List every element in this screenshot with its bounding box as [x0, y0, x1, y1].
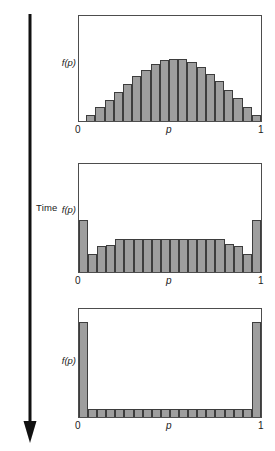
histogram-bar: [132, 76, 141, 121]
histogram-bars-bottom: [79, 309, 261, 417]
histogram-bar: [88, 409, 97, 417]
histogram-bar: [206, 74, 215, 121]
histogram-bar: [114, 92, 123, 121]
histogram-bar: [79, 322, 88, 417]
histogram-bar: [161, 239, 170, 272]
y-axis-label-middle: f(p): [44, 204, 76, 215]
x-tick-right-bottom: 1: [258, 420, 264, 431]
histogram-bar: [134, 239, 143, 272]
histogram-bar: [252, 220, 261, 272]
histogram-bar: [105, 100, 114, 121]
histogram-bar: [161, 409, 170, 417]
histogram-bar: [124, 239, 133, 272]
histogram-bar: [152, 409, 161, 417]
histogram-bar: [225, 409, 234, 417]
histogram-bar: [215, 81, 224, 121]
histogram-bar: [106, 245, 115, 272]
histogram-bars-middle: [79, 164, 261, 272]
histogram-bar: [197, 409, 206, 417]
panel-top: [78, 15, 262, 122]
histogram-bar: [106, 409, 115, 417]
histogram-bar: [143, 409, 152, 417]
histogram-bar: [225, 244, 234, 272]
histogram-bar: [179, 409, 188, 417]
histogram-bar: [79, 220, 88, 272]
histogram-bar: [151, 64, 160, 121]
histogram-bar: [134, 409, 143, 417]
histogram-bar: [197, 239, 206, 272]
x-tick-left-top: 0: [75, 124, 81, 135]
histogram-bar: [160, 60, 169, 121]
histogram-bar: [179, 239, 188, 272]
histogram-bar: [170, 239, 179, 272]
histogram-bar: [143, 239, 152, 272]
histogram-bar: [188, 409, 197, 417]
y-axis-label-top: f(p): [44, 57, 76, 68]
y-axis-label-bottom: f(p): [44, 355, 76, 366]
histogram-bar: [97, 246, 106, 272]
histogram-bar: [170, 409, 179, 417]
histogram-bar: [243, 107, 252, 121]
histogram-bar: [95, 107, 104, 121]
histogram-bar: [178, 59, 187, 121]
x-axis-label-bottom: p: [166, 420, 172, 431]
histogram-bar: [124, 409, 133, 417]
histogram-bar: [123, 84, 132, 121]
x-axis-label-middle: p: [166, 275, 172, 286]
histogram-bar: [233, 98, 242, 121]
histogram-bar: [88, 254, 97, 272]
x-tick-right-middle: 1: [258, 275, 264, 286]
x-tick-right-top: 1: [258, 124, 264, 135]
histogram-bar: [234, 246, 243, 272]
histogram-bar: [169, 59, 178, 121]
histogram-bar: [115, 239, 124, 272]
x-tick-left-middle: 0: [75, 275, 81, 286]
histogram-bar: [215, 409, 224, 417]
histogram-bar: [215, 239, 224, 272]
histogram-bar: [188, 239, 197, 272]
histogram-bars-top: [79, 16, 261, 121]
histogram-bar: [252, 115, 261, 121]
histogram-bar: [206, 409, 215, 417]
histogram-bar: [206, 239, 215, 272]
histogram-bar: [234, 409, 243, 417]
histogram-bar: [86, 115, 95, 121]
histogram-bar: [152, 239, 161, 272]
histogram-bar: [243, 254, 252, 272]
probability-distribution-figure: Time f(p) 0 p 1 f(p) 0 p 1 f(p) 0 p 1: [0, 0, 275, 451]
histogram-bar: [197, 67, 206, 121]
histogram-bar: [115, 409, 124, 417]
histogram-bar: [187, 62, 196, 121]
x-axis-label-top: p: [166, 124, 172, 135]
histogram-bar: [141, 70, 150, 121]
histogram-bar: [224, 90, 233, 122]
histogram-bar: [97, 409, 106, 417]
histogram-bar: [243, 409, 252, 417]
panel-middle: [78, 163, 262, 273]
panel-bottom: [78, 308, 262, 418]
x-tick-left-bottom: 0: [75, 420, 81, 431]
histogram-bar: [252, 322, 261, 417]
